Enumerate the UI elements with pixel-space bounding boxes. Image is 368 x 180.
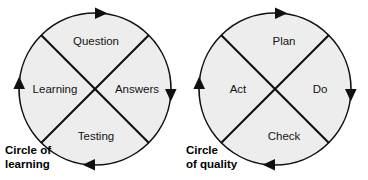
circle-of-quality-label-top: Plan — [272, 35, 295, 47]
circle-of-quality-group: Plan Do Check Act Circle of quality — [186, 7, 357, 170]
circle-of-learning-label-left: Learning — [33, 83, 78, 95]
circle-of-quality-caption-line2: of quality — [186, 158, 238, 170]
circle-of-learning-caption-line2: learning — [5, 158, 50, 170]
circle-of-learning-label-bottom: Testing — [78, 130, 114, 142]
circle-of-learning-group: Question Answers Testing Learning Circle… — [5, 7, 177, 170]
circle-diagrams-svg: Question Answers Testing Learning Circle… — [0, 0, 368, 180]
circle-of-quality-caption-line1: Circle — [186, 144, 218, 156]
circle-of-quality-label-left: Act — [230, 83, 247, 95]
circle-of-quality-label-bottom: Check — [268, 130, 301, 142]
circle-of-learning-label-top: Question — [73, 35, 119, 47]
circle-of-quality-label-right: Do — [313, 83, 328, 95]
circle-of-learning-caption-line1: Circle of — [5, 144, 51, 156]
circle-of-learning-label-right: Answers — [115, 83, 159, 95]
diagram-stage: Question Answers Testing Learning Circle… — [0, 0, 368, 180]
